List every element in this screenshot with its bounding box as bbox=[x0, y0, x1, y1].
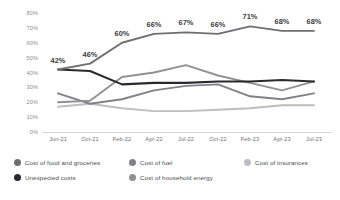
data-label: 66% bbox=[146, 20, 161, 29]
data-label: 71% bbox=[242, 12, 257, 21]
legend-row: Cost of food and groceries Cost of fuel … bbox=[14, 155, 330, 170]
data-label: 66% bbox=[210, 20, 225, 29]
legend-item-label: Cost of insurances bbox=[255, 159, 308, 166]
y-axis: 80%70%60%50%40%30%20%10%0% bbox=[0, 13, 38, 132]
x-axis-tick: Apr-23 bbox=[266, 136, 298, 148]
x-axis-tick: Jul-23 bbox=[298, 136, 330, 148]
legend-item-fuel[interactable]: Cost of fuel bbox=[129, 159, 244, 166]
legend-item-unexpected[interactable]: Unexpected costs bbox=[14, 174, 129, 181]
x-axis-tick: Jul-22 bbox=[170, 136, 202, 148]
y-axis-tick: 50% bbox=[2, 55, 38, 61]
legend-item-label: Unexpected costs bbox=[25, 174, 76, 181]
data-label: 42% bbox=[50, 56, 65, 65]
data-label: 46% bbox=[82, 50, 97, 59]
legend-dot-icon bbox=[129, 174, 136, 181]
y-axis-tick: 70% bbox=[2, 25, 38, 31]
x-axis-tick: Oct-22 bbox=[202, 136, 234, 148]
y-axis-tick: 20% bbox=[2, 99, 38, 105]
legend-item-insurances[interactable]: Cost of insurances bbox=[244, 159, 330, 166]
plot-svg bbox=[42, 13, 330, 132]
y-axis-tick: 40% bbox=[2, 70, 38, 76]
legend-item-label: Cost of household energy bbox=[140, 174, 213, 181]
y-axis-tick: 0% bbox=[2, 129, 38, 135]
y-axis-tick: 10% bbox=[2, 114, 38, 120]
x-axis-tick: Oct-21 bbox=[74, 136, 106, 148]
series-line bbox=[58, 70, 314, 85]
series-line bbox=[58, 104, 314, 111]
legend-dot-icon bbox=[14, 159, 21, 166]
legend-dot-icon bbox=[129, 159, 136, 166]
y-axis-tick: 30% bbox=[2, 84, 38, 90]
x-axis-tick: Feb-23 bbox=[234, 136, 266, 148]
x-axis-tick: Feb-22 bbox=[106, 136, 138, 148]
legend-dot-icon bbox=[244, 159, 251, 166]
line-chart: 80%70%60%50%40%30%20%10%0% Jun-21Oct-21F… bbox=[0, 0, 340, 200]
data-label: 67% bbox=[178, 18, 193, 27]
data-label: 68% bbox=[274, 17, 289, 26]
legend-item-label: Cost of food and groceries bbox=[25, 159, 100, 166]
data-label: 68% bbox=[306, 17, 321, 26]
x-axis-tick: Jun-21 bbox=[42, 136, 74, 148]
series-line bbox=[58, 84, 314, 103]
x-axis: Jun-21Oct-21Feb-22Apr-22Jul-22Oct-22Feb-… bbox=[42, 136, 330, 148]
plot-area bbox=[42, 13, 330, 132]
legend-item-label: Cost of fuel bbox=[140, 159, 173, 166]
legend-dot-icon bbox=[14, 174, 21, 181]
chart-legend: Cost of food and groceries Cost of fuel … bbox=[14, 155, 330, 187]
y-axis-tick: 80% bbox=[2, 10, 38, 16]
legend-item-energy[interactable]: Cost of household energy bbox=[129, 174, 244, 181]
series-line bbox=[58, 26, 314, 69]
x-axis-line bbox=[42, 132, 332, 133]
y-axis-tick: 60% bbox=[2, 40, 38, 46]
data-label: 60% bbox=[114, 29, 129, 38]
legend-item-food[interactable]: Cost of food and groceries bbox=[14, 159, 129, 166]
x-axis-tick: Apr-22 bbox=[138, 136, 170, 148]
legend-row: Unexpected costs Cost of household energ… bbox=[14, 170, 330, 185]
